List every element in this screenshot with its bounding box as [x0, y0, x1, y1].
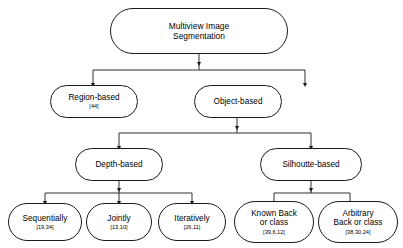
- node-sequentially-ref: [19,34]: [36, 224, 53, 231]
- edge-root-to-level1: [93, 54, 305, 85]
- edge-silhouttebased-to-level3: [274, 181, 350, 203]
- node-known-back-or-class-label: Known Back or class: [251, 209, 297, 228]
- node-iteratively-ref: [26,11]: [184, 224, 201, 231]
- node-jointly-label: Jointly: [107, 214, 130, 224]
- edge-objectbased-to-level2: [119, 118, 311, 148]
- node-arbitrary-back-or-class[interactable]: Arbitrary Back or class [38,30,24]: [318, 201, 398, 243]
- node-jointly-ref: [13,10]: [110, 224, 127, 231]
- node-depth-based-label: Depth-based: [95, 160, 142, 170]
- node-known-back-or-class[interactable]: Known Back or class [39,6,12]: [234, 201, 314, 243]
- node-silhoutte-based[interactable]: Silhoutte-based: [260, 148, 362, 181]
- node-jointly[interactable]: Jointly [13,10]: [86, 203, 152, 241]
- node-root-label: Multiview Image Segmentation: [169, 21, 229, 41]
- node-region-based-ref: [44]: [89, 103, 98, 110]
- taxonomy-diagram: Multiview Image Segmentation Region-base…: [0, 0, 403, 248]
- node-silhoutte-based-label: Silhoutte-based: [282, 160, 339, 170]
- node-arbitrary-back-or-class-ref: [38,30,24]: [346, 229, 371, 236]
- node-sequentially-label: Sequentially: [23, 214, 68, 224]
- node-arbitrary-back-or-class-label: Arbitrary Back or class: [334, 209, 383, 228]
- node-sequentially[interactable]: Sequentially [19,34]: [8, 203, 82, 241]
- node-object-based[interactable]: Object-based: [194, 85, 282, 118]
- node-iteratively-label: Iteratively: [174, 214, 209, 224]
- node-known-back-or-class-ref: [39,6,12]: [263, 229, 285, 236]
- node-iteratively[interactable]: Iteratively [26,11]: [158, 203, 226, 241]
- node-depth-based[interactable]: Depth-based: [75, 148, 163, 181]
- edge-depthbased-to-level3: [45, 181, 192, 203]
- node-region-based-label: Region-based: [68, 93, 119, 103]
- node-root[interactable]: Multiview Image Segmentation: [110, 8, 288, 54]
- node-object-based-label: Object-based: [214, 97, 263, 107]
- node-region-based[interactable]: Region-based [44]: [50, 85, 138, 118]
